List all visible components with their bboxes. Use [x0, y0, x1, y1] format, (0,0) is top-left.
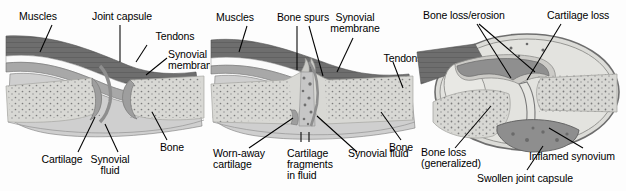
- label-worn-away-cartilage-line2: cartilage: [213, 158, 252, 170]
- label-joint-capsule: Joint capsule: [92, 10, 152, 22]
- label-bone: Bone: [389, 141, 413, 153]
- label-synovial-membrane-line2: membrane: [330, 22, 380, 34]
- bone-right-trabeculae: [537, 72, 621, 116]
- joint-anatomy-figure: Muscles Joint capsule Tendons Synovial m…: [0, 0, 626, 191]
- bone-left-trabeculae: [213, 78, 297, 124]
- label-cartilage: Cartilage: [41, 153, 82, 165]
- label-bone: Bone: [160, 141, 184, 153]
- label-inflamed-synovium: Inflamed synovium: [529, 150, 615, 162]
- label-bone-spurs: Bone spurs: [277, 11, 329, 23]
- label-muscles: Muscles: [19, 10, 57, 22]
- label-tendons: Tendons: [156, 30, 195, 42]
- panel-osteoarthritis-joint: Muscles Bone spurs Synovial membrane Ten…: [205, 0, 420, 191]
- label-bone-loss-erosion: Bone loss/erosion: [423, 9, 505, 21]
- label-muscles: Muscles: [216, 11, 254, 23]
- panel-normal-joint: Muscles Joint capsule Tendons Synovial m…: [0, 0, 210, 191]
- label-swollen-joint-capsule: Swollen joint capsule: [477, 172, 573, 184]
- panel-rheumatoid-arthritis-joint: Bone loss/erosion Cartilage loss Bone lo…: [415, 0, 626, 191]
- label-cartilage-loss: Cartilage loss: [547, 9, 609, 21]
- osteoarthritis-joint-illustration: Muscles Bone spurs Synovial membrane Ten…: [205, 0, 420, 191]
- label-bone-loss-generalized-line2: (generalized): [421, 157, 481, 169]
- normal-joint-illustration: Muscles Joint capsule Tendons Synovial m…: [0, 0, 210, 191]
- bone-right-trabeculae: [126, 76, 206, 122]
- rheumatoid-arthritis-joint-illustration: Bone loss/erosion Cartilage loss Bone lo…: [415, 0, 626, 191]
- label-synovial-membrane-line2: membrane: [168, 59, 210, 71]
- label-synovial-fluid-line2: fluid: [101, 164, 120, 176]
- label-cartilage-fragments-line3: in fluid: [287, 169, 317, 181]
